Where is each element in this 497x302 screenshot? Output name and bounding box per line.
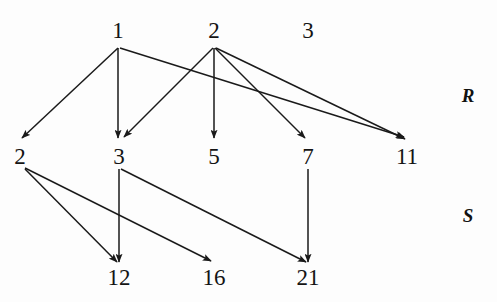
node-bot-21: 21 — [297, 266, 320, 289]
node-mid-11: 11 — [396, 145, 418, 168]
edge-2-to-16 — [25, 168, 211, 261]
edge-2-to-12 — [25, 169, 117, 262]
edge-1-to-11 — [120, 48, 404, 137]
node-bot-12: 12 — [108, 266, 131, 289]
node-mid-3: 3 — [113, 145, 125, 168]
row-label-R: R — [462, 86, 475, 105]
node-top-2: 2 — [208, 19, 220, 42]
node-top-1: 1 — [112, 19, 124, 42]
arrow-diagram: 123235711121621 RS — [0, 0, 497, 302]
edge-layer — [0, 0, 497, 302]
node-mid-7: 7 — [302, 145, 314, 168]
edge-3-to-21 — [121, 169, 306, 262]
node-bot-16: 16 — [203, 266, 226, 289]
edge-1-to-2 — [22, 48, 118, 138]
node-mid-5: 5 — [208, 145, 220, 168]
edge-2-to-3 — [124, 48, 213, 137]
edge-2-to-7 — [215, 48, 305, 138]
row-label-S: S — [463, 206, 474, 225]
node-top-3: 3 — [302, 19, 314, 42]
edge-2-to-11 — [216, 48, 405, 139]
node-mid-2: 2 — [14, 145, 26, 168]
